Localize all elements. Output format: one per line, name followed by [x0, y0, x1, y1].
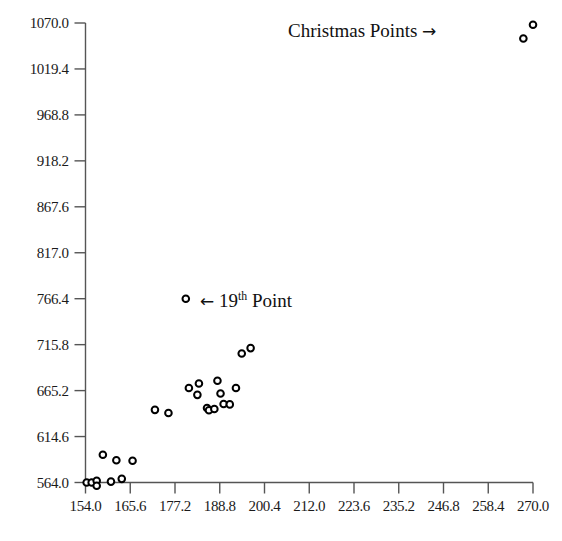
y-axis-tick-label: 1019.4: [0, 60, 69, 77]
axes: [75, 23, 534, 494]
y-axis-tick-label: 665.2: [0, 382, 69, 399]
data-point-marker: [186, 385, 193, 392]
nineteenth-point-number: 19: [219, 290, 238, 311]
y-axis-tick-label: 1070.0: [0, 15, 69, 32]
nineteenth-point-ordinal-suffix: th: [238, 290, 247, 303]
data-point-marker: [214, 377, 221, 384]
x-axis-tick-label: 223.6: [338, 498, 370, 515]
data-point-marker: [247, 345, 254, 352]
nineteenth-point-label: Point: [252, 290, 292, 311]
y-axis-tick-label: 867.6: [0, 198, 69, 215]
y-axis-tick-label: 564.0: [0, 474, 69, 491]
x-axis-tick-label: 188.8: [204, 498, 236, 515]
data-point-marker: [93, 482, 100, 489]
data-point-marker: [520, 35, 527, 42]
x-axis-tick-label: 270.0: [517, 498, 549, 515]
x-axis-tick-label: 200.4: [249, 498, 281, 515]
nineteenth-point-annotation: ← 19th Point: [200, 290, 292, 312]
data-point-marker: [211, 406, 218, 413]
data-point-marker: [113, 457, 120, 464]
christmas-points-label: Christmas Points: [288, 20, 417, 41]
data-point-marker: [118, 476, 125, 483]
y-axis-tick-label: 968.8: [0, 106, 69, 123]
data-point-marker: [100, 452, 107, 459]
arrow-left-icon: ←: [200, 291, 214, 311]
y-axis-tick-label: 817.0: [0, 244, 69, 261]
x-axis-tick-label: 246.8: [428, 498, 460, 515]
y-axis-tick-label: 918.2: [0, 152, 69, 169]
plot-area: [0, 0, 562, 541]
scatter-chart: 1070.01019.4968.8918.2867.6817.0766.4715…: [0, 0, 562, 541]
data-point-marker: [194, 392, 201, 399]
y-axis-tick-label: 715.8: [0, 336, 69, 353]
y-axis-tick-label: 766.4: [0, 290, 69, 307]
data-point-marker: [530, 22, 537, 29]
arrow-right-icon: →: [422, 21, 436, 41]
x-axis-tick-label: 212.0: [293, 498, 325, 515]
data-point-marker: [196, 380, 203, 387]
data-point-marker: [129, 457, 136, 464]
data-point-marker: [108, 478, 115, 485]
data-point-marker: [233, 385, 240, 392]
data-point-marker: [152, 407, 159, 414]
data-point-marker: [217, 390, 224, 397]
y-axis-tick-label: 614.6: [0, 428, 69, 445]
x-axis-tick-label: 235.2: [383, 498, 415, 515]
data-point-marker: [226, 401, 233, 408]
data-point-marker: [238, 350, 245, 357]
x-axis-tick-label: 177.2: [159, 498, 191, 515]
x-axis-tick-label: 154.0: [70, 498, 102, 515]
x-axis-tick-label: 258.4: [472, 498, 504, 515]
x-axis-tick-label: 165.6: [114, 498, 146, 515]
christmas-points-annotation: Christmas Points →: [288, 20, 436, 42]
data-points: [83, 22, 536, 489]
data-point-marker: [183, 295, 190, 302]
data-point-marker: [165, 410, 172, 417]
